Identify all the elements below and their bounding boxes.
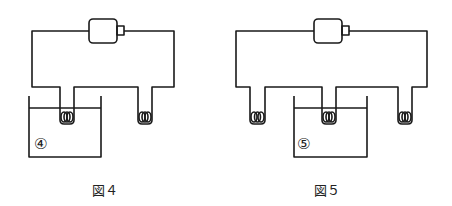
figure-4-circuit (29, 19, 174, 157)
beaker-label-5: ⑤ (297, 135, 310, 153)
figure-caption-5: 図５ (314, 180, 340, 199)
diagram-canvas (0, 0, 452, 206)
beaker-label-4: ④ (34, 135, 47, 153)
battery-icon (314, 19, 342, 43)
figure-caption-4: 図４ (92, 180, 118, 199)
battery-icon (89, 19, 117, 43)
figure-5-circuit (236, 19, 427, 157)
